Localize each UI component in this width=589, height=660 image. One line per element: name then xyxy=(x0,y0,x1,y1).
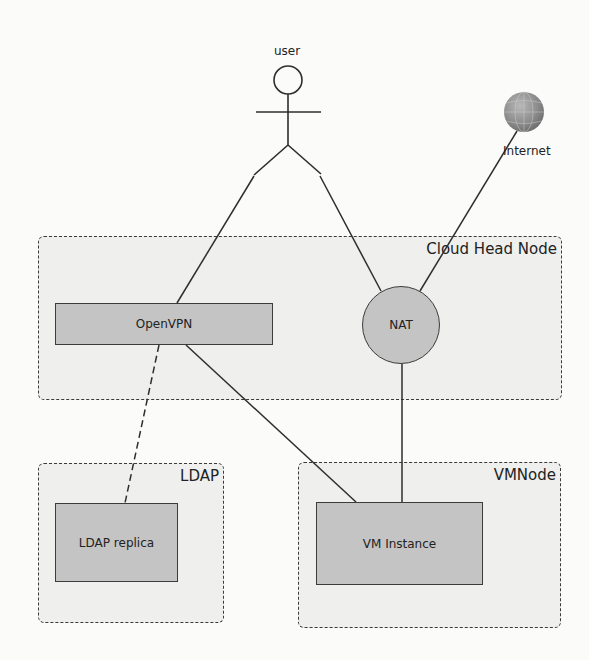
user-actor-icon xyxy=(254,66,321,175)
ldap-replica-label: LDAP replica xyxy=(79,536,154,550)
container-title-cloud-head-node: Cloud Head Node xyxy=(426,240,557,258)
openvpn-label: OpenVPN xyxy=(136,317,192,331)
vm-instance-label: VM Instance xyxy=(363,537,436,551)
openvpn-node: OpenVPN xyxy=(55,303,273,345)
ldap-replica-node: LDAP replica xyxy=(55,503,178,582)
nat-node: NAT xyxy=(362,286,440,364)
vm-instance-node: VM Instance xyxy=(316,502,483,585)
internet-label: Internet xyxy=(503,144,551,158)
globe-icon xyxy=(504,92,544,132)
user-label: user xyxy=(274,44,300,58)
nat-label: NAT xyxy=(389,318,413,332)
container-title-ldap: LDAP xyxy=(180,467,219,485)
container-title-vmnode: VMNode xyxy=(494,466,556,484)
deployment-diagram: Cloud Head Node LDAP VMNode OpenVPN NAT … xyxy=(0,0,589,660)
